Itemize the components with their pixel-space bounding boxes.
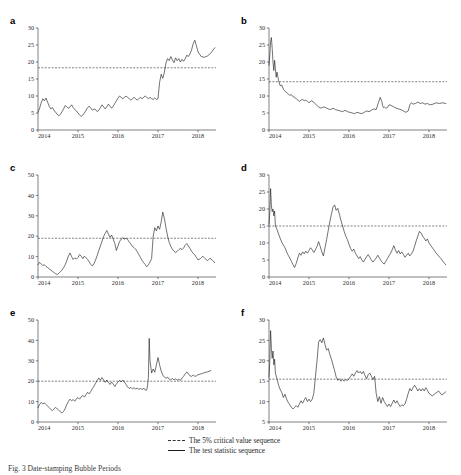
panel-a-x-tick-label: 2017: [152, 132, 164, 139]
panel-a-y-tick-label: 30: [28, 24, 34, 31]
panel-e-letter: e: [10, 307, 15, 318]
panel-f-letter: f: [241, 307, 245, 318]
panel-c-y-tick-label: 0: [31, 273, 34, 280]
panel-f-y-tick-label: 10: [259, 398, 265, 405]
panel-a-x-tick-label: 2015: [72, 132, 84, 139]
panel-a: a05101520253020142015201620172018: [8, 16, 222, 146]
panel-e-x-tick-label: 2016: [112, 424, 124, 431]
panel-e-y-tick-label: 30: [28, 357, 34, 364]
panel-f: f5101520253020142015201620172018: [239, 308, 453, 438]
legend-item-statistic: The test statistic sequence: [168, 446, 358, 455]
panel-f-y-tick-label: 15: [259, 377, 265, 384]
panel-c-x-tick-label: 2017: [152, 279, 164, 286]
panel-d-y-tick-label: 0: [262, 273, 265, 280]
panel-f-x-tick-label: 2015: [303, 424, 315, 431]
panel-c-y-tick-label: 10: [28, 253, 34, 260]
panel-f-y-tick-label: 25: [259, 337, 265, 344]
panel-b-x-tick-label: 2016: [343, 132, 355, 139]
panel-d-x-tick-label: 2015: [303, 279, 315, 286]
figure-container: a05101520253020142015201620172018 b05101…: [0, 0, 461, 475]
panel-b-y-tick-label: 5: [262, 109, 265, 116]
panel-d-letter: d: [241, 162, 247, 173]
panel-f-x-tick-label: 2016: [343, 424, 355, 431]
panel-b-y-tick-label: 25: [259, 41, 265, 48]
panel-a-y-tick-label: 5: [31, 109, 34, 116]
panel-c-letter: c: [10, 162, 15, 173]
panel-d: d05101520253020142015201620172018: [239, 163, 453, 293]
panel-a-y-tick-label: 25: [28, 41, 34, 48]
panel-e-y-tick-label: 10: [28, 398, 34, 405]
panel-e-plot: e0102030405020142015201620172018: [8, 308, 222, 438]
panel-a-test-statistic-series: [38, 40, 215, 116]
panel-d-y-tick-label: 25: [259, 188, 265, 195]
solid-line-swatch-icon: [168, 450, 185, 451]
panel-e-x-tick-label: 2018: [192, 424, 204, 431]
panel-d-x-tick-label: 2017: [383, 279, 395, 286]
panel-f-y-tick-label: 30: [259, 316, 265, 323]
panel-c-x-tick-label: 2018: [192, 279, 204, 286]
legend-label-statistic: The test statistic sequence: [189, 446, 265, 455]
legend-label-critical: The 5% critical value sequence: [189, 436, 280, 445]
panel-e-y-tick-label: 40: [28, 337, 34, 344]
panel-f-x-tick-label: 2014: [269, 424, 281, 431]
panel-e-y-tick-label: 0: [31, 418, 34, 425]
panel-f-y-tick-label: 20: [259, 357, 265, 364]
panel-d-y-tick-label: 5: [262, 256, 265, 263]
panel-d-y-tick-label: 20: [259, 205, 265, 212]
panel-c: c0102030405020142015201620172018: [8, 163, 222, 293]
panel-e-y-tick-label: 50: [28, 316, 34, 323]
panel-e-y-tick-label: 20: [28, 377, 34, 384]
panel-b-x-tick-label: 2017: [383, 132, 395, 139]
panel-c-x-tick-label: 2014: [38, 279, 50, 286]
panel-b-x-tick-label: 2015: [303, 132, 315, 139]
panel-b-x-tick-label: 2014: [269, 132, 281, 139]
legend-item-critical: The 5% critical value sequence: [168, 436, 358, 445]
panel-c-test-statistic-series: [38, 212, 215, 274]
panel-d-plot: d05101520253020142015201620172018: [239, 163, 453, 293]
figure-caption: Fig. 3 Date-stamping Bubble Periods: [8, 464, 308, 474]
panel-d-test-statistic-series: [269, 189, 446, 268]
panel-d-x-tick-label: 2014: [269, 279, 281, 286]
panel-e-x-tick-label: 2014: [38, 424, 50, 431]
panel-a-x-tick-label: 2014: [38, 132, 50, 139]
panel-a-y-tick-label: 20: [28, 58, 34, 65]
panel-f-y-tick-label: 5: [262, 418, 265, 425]
panel-d-y-tick-label: 15: [259, 222, 265, 229]
panel-c-plot: c0102030405020142015201620172018: [8, 163, 222, 293]
panel-b-x-tick-label: 2018: [423, 132, 435, 139]
panel-d-x-tick-label: 2016: [343, 279, 355, 286]
panel-a-y-tick-label: 10: [28, 92, 34, 99]
panel-d-y-tick-label: 10: [259, 239, 265, 246]
panel-b-y-tick-label: 15: [259, 75, 265, 82]
panel-c-y-tick-label: 50: [28, 171, 34, 178]
panel-b-y-tick-label: 30: [259, 24, 265, 31]
panel-e-x-tick-label: 2017: [152, 424, 164, 431]
panel-d-x-tick-label: 2018: [423, 279, 435, 286]
panel-c-y-tick-label: 30: [28, 212, 34, 219]
panel-b: b05101520253020142015201620172018: [239, 16, 453, 146]
panel-c-x-tick-label: 2015: [72, 279, 84, 286]
panel-b-y-tick-label: 20: [259, 58, 265, 65]
panel-e-x-tick-label: 2015: [72, 424, 84, 431]
panel-a-plot: a05101520253020142015201620172018: [8, 16, 222, 146]
panel-a-y-tick-label: 0: [31, 126, 34, 133]
panel-b-test-statistic-series: [269, 38, 446, 114]
dashed-line-swatch-icon: [168, 440, 185, 441]
panel-f-x-tick-label: 2018: [423, 424, 435, 431]
panel-c-x-tick-label: 2016: [112, 279, 124, 286]
panel-b-y-tick-label: 0: [262, 126, 265, 133]
figure-legend: The 5% critical value sequence The test …: [168, 436, 358, 456]
panel-a-x-tick-label: 2018: [192, 132, 204, 139]
panel-f-plot: f5101520253020142015201620172018: [239, 308, 453, 438]
panel-b-y-tick-label: 10: [259, 92, 265, 99]
panel-c-y-tick-label: 20: [28, 232, 34, 239]
panel-f-x-tick-label: 2017: [383, 424, 395, 431]
panel-f-test-statistic-series: [269, 331, 446, 409]
panel-e: e0102030405020142015201620172018: [8, 308, 222, 438]
panel-b-letter: b: [241, 15, 247, 26]
panel-a-y-tick-label: 15: [28, 75, 34, 82]
panel-b-plot: b05101520253020142015201620172018: [239, 16, 453, 146]
panel-a-x-tick-label: 2016: [112, 132, 124, 139]
panel-d-y-tick-label: 30: [259, 171, 265, 178]
panel-a-letter: a: [10, 15, 16, 26]
